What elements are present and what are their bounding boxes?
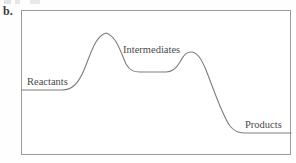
products-label: Products <box>245 119 282 130</box>
reactants-label: Reactants <box>27 76 68 87</box>
intermediates-label: Intermediates <box>123 44 180 55</box>
reaction-energy-diagram-figure: b. Reactants Intermediates Products <box>0 0 296 163</box>
